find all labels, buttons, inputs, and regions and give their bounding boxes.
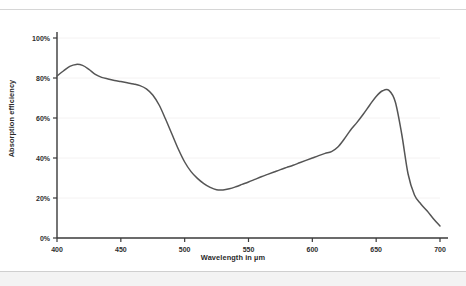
y-tick-label: 80%: [36, 75, 51, 82]
x-axis-title: Wavelength in µm: [0, 253, 466, 262]
y-tick-label: 0%: [40, 235, 51, 242]
y-axis-title: Absorption efficiency: [7, 64, 16, 174]
page-background: 0%20%40%60%80%100% 400450500550600650700…: [0, 0, 466, 286]
x-tick-label: 650: [370, 246, 382, 253]
y-tick-label: 100%: [32, 35, 51, 42]
x-tick-label: 400: [51, 246, 63, 253]
y-tick-label: 20%: [36, 195, 51, 202]
absorption-efficiency-chart: 0%20%40%60%80%100% 400450500550600650700…: [0, 10, 466, 271]
x-tick-label: 450: [115, 246, 127, 253]
x-tick-label: 500: [179, 246, 191, 253]
y-tick-label: 40%: [36, 155, 51, 162]
x-tick-label: 700: [434, 246, 446, 253]
x-tick-label: 600: [306, 246, 318, 253]
x-tick-label: 550: [243, 246, 255, 253]
plot-background: [0, 10, 466, 271]
bottom-band: [0, 272, 466, 286]
y-tick-label: 60%: [36, 115, 51, 122]
chart-canvas: 0%20%40%60%80%100% 400450500550600650700: [0, 10, 466, 271]
